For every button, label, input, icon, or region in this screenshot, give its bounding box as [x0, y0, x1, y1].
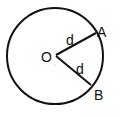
segment-oa-label: d: [66, 32, 74, 48]
segment-ob-label: d: [76, 61, 84, 77]
point-a-label: A: [97, 24, 107, 40]
center-label: O: [41, 49, 52, 65]
point-b-label: B: [94, 87, 103, 103]
radius-ob: [56, 56, 91, 85]
radius-oa: [56, 33, 96, 55]
circle-diagram: O A B d d: [0, 0, 120, 116]
center-dot: [54, 64, 55, 65]
circle: [7, 8, 103, 104]
